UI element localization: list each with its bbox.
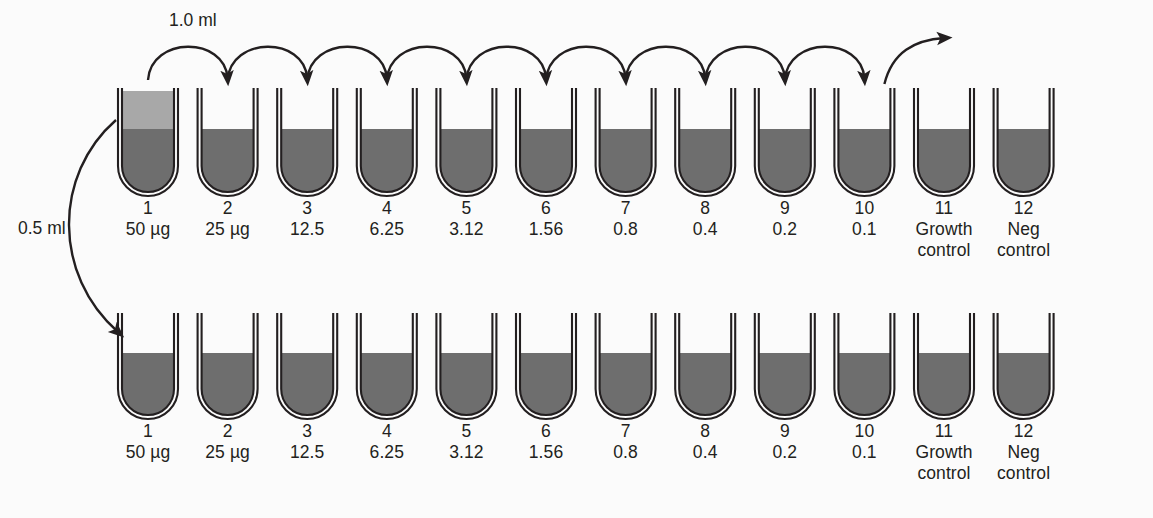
- broth-fill: [679, 353, 731, 415]
- tube-number: 12: [974, 421, 1074, 442]
- tube-concentration: Neg control: [974, 219, 1074, 261]
- test-tube: [277, 313, 337, 419]
- transfer-arrow: [626, 47, 706, 80]
- test-tube: [357, 313, 417, 419]
- tube-number: 12: [974, 198, 1074, 219]
- broth-fill: [520, 353, 572, 415]
- test-tube: [436, 313, 496, 419]
- tube-label: 12Neg control: [974, 421, 1074, 484]
- tube-group-bottom-row: [118, 313, 1054, 419]
- test-tube: [118, 313, 178, 419]
- test-tube: [357, 88, 417, 196]
- tube-concentration: Neg control: [974, 442, 1074, 484]
- test-tube: [516, 88, 576, 196]
- broth-fill: [122, 353, 174, 415]
- transfer-arrow: [387, 47, 467, 80]
- broth-fill: [361, 129, 413, 192]
- broth-fill: [202, 129, 254, 192]
- tube-group-top-row: [118, 88, 1054, 196]
- transfer-arrow: [148, 47, 228, 80]
- broth-fill: [600, 353, 652, 415]
- broth-fill: [759, 129, 811, 192]
- test-tube: [994, 88, 1054, 196]
- discard-arrow: [884, 38, 944, 84]
- test-tube: [834, 88, 894, 196]
- broth-fill: [440, 353, 492, 415]
- broth-fill: [998, 353, 1050, 415]
- broth-fill: [600, 129, 652, 192]
- broth-fill: [998, 129, 1050, 192]
- broth-fill: [918, 353, 970, 415]
- test-tube: [914, 88, 974, 196]
- test-tube: [436, 88, 496, 196]
- transfer-arrow: [705, 47, 785, 80]
- test-tube: [675, 88, 735, 196]
- serial-dilution-diagram: 150 µg225 µg312.546.2553.1261.5670.880.4…: [0, 0, 1153, 518]
- test-tube: [596, 88, 656, 196]
- transfer-arrow: [546, 47, 626, 80]
- drug-layer-fill: [122, 91, 174, 129]
- broth-fill: [281, 353, 333, 415]
- test-tube: [118, 88, 178, 196]
- transfer-arrow: [785, 47, 865, 80]
- test-tube: [198, 313, 258, 419]
- broth-fill: [281, 129, 333, 192]
- test-tube: [596, 313, 656, 419]
- broth-fill: [520, 129, 572, 192]
- transfer-arrow: [466, 47, 546, 80]
- broth-fill: [759, 353, 811, 415]
- broth-fill: [202, 353, 254, 415]
- broth-fill: [918, 129, 970, 192]
- tube-label: 12Neg control: [974, 198, 1074, 261]
- transfer-arrow: [307, 47, 387, 80]
- test-tube: [994, 313, 1054, 419]
- transfer-volume-label: 1.0 ml: [169, 10, 217, 30]
- test-tube: [755, 88, 815, 196]
- arrow-group: [69, 38, 944, 332]
- test-tube: [755, 313, 815, 419]
- transfer-arrow: [228, 47, 308, 80]
- test-tube: [516, 313, 576, 419]
- test-tube: [914, 313, 974, 419]
- test-tube: [834, 313, 894, 419]
- broth-fill: [361, 353, 413, 415]
- test-tube: [198, 88, 258, 196]
- test-tube: [675, 313, 735, 419]
- broth-fill: [838, 129, 890, 192]
- broth-fill: [838, 353, 890, 415]
- broth-fill: [679, 129, 731, 192]
- test-tube: [277, 88, 337, 196]
- inoculum-volume-label: 0.5 ml: [18, 218, 66, 238]
- broth-fill: [440, 129, 492, 192]
- broth-fill: [122, 129, 174, 192]
